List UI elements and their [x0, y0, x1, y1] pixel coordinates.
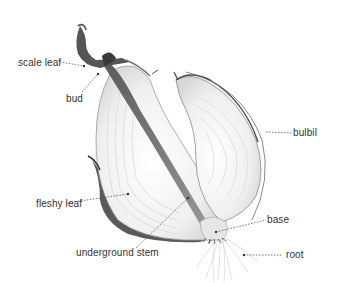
label-base: base	[267, 214, 289, 225]
label-bud: bud	[66, 93, 83, 104]
label-fleshy-leaf: fleshy leaf	[36, 198, 82, 209]
base	[200, 217, 227, 240]
label-underground-stem: underground stem	[76, 247, 159, 258]
label-scale-leaf: scale leaf	[18, 57, 61, 68]
leader-bud	[82, 74, 98, 92]
onion-diagram: scale leaf bud bulbil fleshy leaf underg…	[0, 0, 340, 283]
leader-scale-leaf	[60, 62, 84, 66]
onion-illustration	[0, 0, 340, 283]
leader-bulbil	[266, 132, 292, 133]
label-bulbil: bulbil	[293, 127, 317, 138]
label-root: root	[286, 249, 304, 260]
roots	[196, 238, 258, 282]
